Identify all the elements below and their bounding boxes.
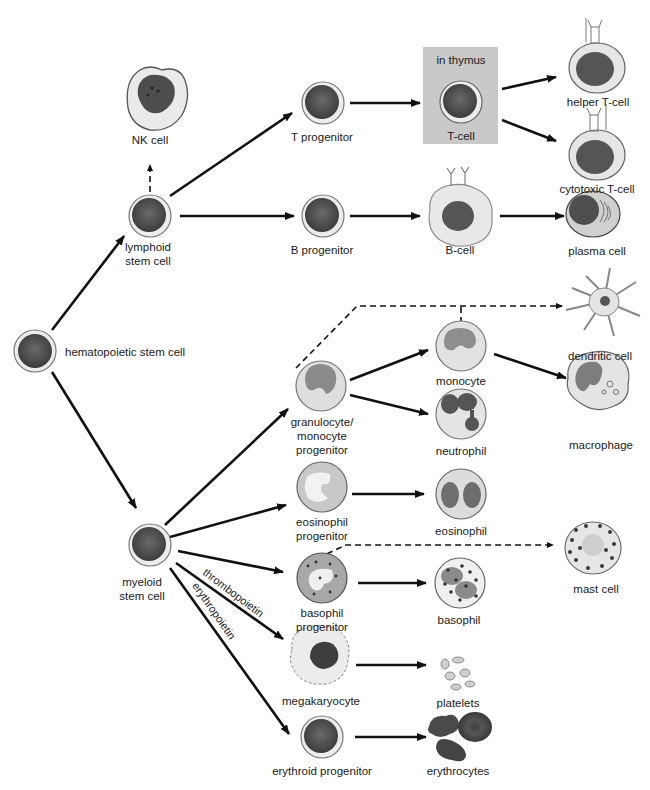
- myeloid-label-1: myeloid: [122, 575, 162, 589]
- cytotoxic-t-cell-icon: [569, 104, 625, 180]
- eosinophil-progenitor-label-1: eosinophil: [296, 515, 348, 529]
- eosinophil-progenitor-label-2: progenitor: [296, 529, 348, 543]
- cytotoxic-t-cell-label: cytotoxic T-cell: [559, 182, 634, 196]
- edge-myeloid-baso: [178, 551, 283, 572]
- gm-progenitor-cell-icon: [296, 361, 346, 411]
- myeloid-label-2: stem cell: [119, 589, 164, 603]
- edge-tcell-helper: [502, 77, 556, 89]
- b-cell-label: B-cell: [446, 243, 475, 257]
- thymus-box-label: in thymus: [436, 53, 485, 67]
- edge-baso-mast: [318, 545, 553, 558]
- lymphoid-label-1: lymphoid: [125, 240, 171, 254]
- monocyte-cell-icon: [436, 321, 486, 371]
- eosinophil-label: eosinophil: [435, 524, 487, 538]
- dashed-edges: [150, 165, 562, 558]
- dendritic-cell-icon: [566, 268, 640, 336]
- plasma-cell-icon: [566, 191, 620, 237]
- megakaryocyte-cell-icon: [290, 625, 348, 684]
- macrophage-label: macrophage: [569, 438, 633, 452]
- erythrocytes-label: erythrocytes: [427, 764, 490, 778]
- t-cell-label: T-cell: [447, 129, 474, 143]
- lymphoid-cell-icon: [129, 195, 171, 237]
- erythroid-progenitor-cell-icon: [301, 716, 343, 758]
- gm-progenitor-label-2: monocyte: [297, 429, 347, 443]
- nk-cell-icon: [127, 67, 187, 130]
- lymphoid-label-2: stem cell: [125, 254, 170, 268]
- gm-progenitor-label-3: progenitor: [296, 443, 348, 457]
- monocyte-label: monocyte: [436, 374, 486, 388]
- neutrophil-cell-icon: [436, 389, 486, 439]
- megakaryocyte-label: megakaryocyte: [282, 694, 360, 708]
- edge-monocyte-macrophage: [494, 354, 566, 378]
- mast-cell-icon: [565, 522, 621, 574]
- b-progenitor-label: B progenitor: [291, 243, 354, 257]
- hsc-label: hematopoietic stem cell: [65, 345, 185, 359]
- dendritic-cell-label: dendritic cell: [568, 349, 632, 363]
- hsc-cell-icon: [14, 330, 56, 372]
- edge-gm-neutrophil: [350, 395, 428, 414]
- helper-t-cell-label: helper T-cell: [567, 95, 629, 109]
- erythrocytes-icon: [428, 712, 492, 761]
- nk-cell-label: NK cell: [132, 133, 168, 147]
- edge-gm-monocyte: [350, 350, 428, 380]
- b-cell-icon: [429, 167, 492, 246]
- edge-tcell-cytotoxic: [502, 120, 556, 141]
- erythroid-progenitor-label: erythroid progenitor: [272, 764, 372, 778]
- basophil-progenitor-label-2: progenitor: [296, 620, 348, 634]
- basophil-progenitor-cell-icon: [297, 553, 347, 603]
- gm-progenitor-label-1: granulocyte/: [291, 415, 354, 429]
- platelets-label: platelets: [437, 696, 480, 710]
- basophil-label: basophil: [438, 613, 481, 627]
- myeloid-cell-icon: [129, 524, 171, 566]
- eosinophil-progenitor-cell-icon: [297, 462, 347, 512]
- platelets-icon: [441, 657, 475, 690]
- b-progenitor-cell-icon: [302, 195, 344, 237]
- basophil-progenitor-label-1: basophil: [301, 606, 344, 620]
- edge-hsc-myeloid: [52, 372, 136, 508]
- edge-gm-dendritic: [296, 306, 562, 368]
- edge-hsc-lymphoid: [52, 236, 124, 330]
- edge-myeloid-gm: [165, 409, 288, 525]
- t-progenitor-cell-icon: [302, 82, 344, 124]
- neutrophil-label: neutrophil: [436, 444, 487, 458]
- eosinophil-cell-icon: [436, 469, 486, 519]
- basophil-cell-icon: [435, 558, 485, 608]
- plasma-cell-label: plasma cell: [568, 244, 626, 258]
- mast-cell-label: mast cell: [573, 582, 618, 596]
- edge-myeloid-eos: [170, 505, 286, 537]
- t-progenitor-label: T progenitor: [291, 130, 353, 144]
- edge-lymphoid-tprog: [170, 113, 292, 196]
- diagram-canvas: [0, 0, 650, 790]
- helper-t-cell-icon: [569, 18, 625, 93]
- t-cell-icon: [440, 81, 482, 123]
